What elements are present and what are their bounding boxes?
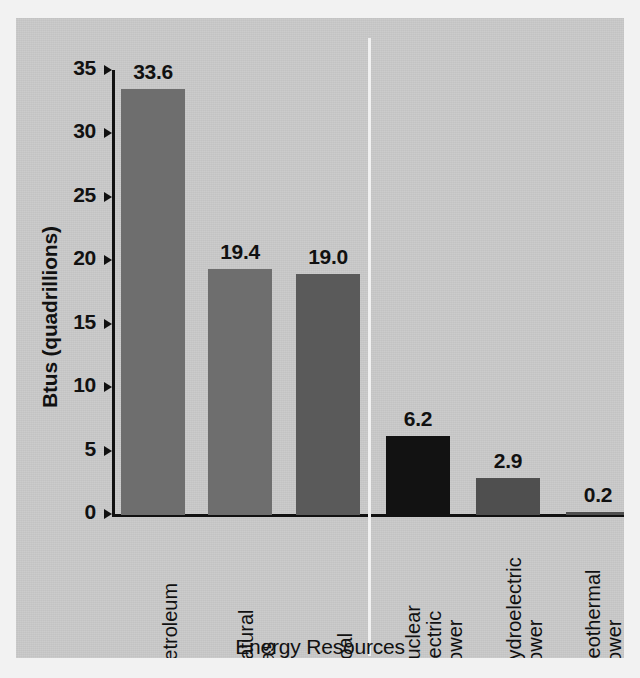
x-axis-title: Energy Resources	[16, 635, 624, 658]
bar-value-label: 0.2	[552, 484, 624, 505]
y-tick-arrow-icon	[104, 128, 112, 138]
y-axis-title: Btus (quadrillions)	[38, 226, 62, 408]
chart-panel: 35302520151050 33.619.419.06.22.90.2 Pet…	[16, 18, 624, 658]
plot-area: 33.619.419.06.22.90.2	[112, 70, 624, 515]
bar-value-label: 2.9	[462, 450, 554, 471]
bar-hydroelectric-power[interactable]	[476, 478, 540, 515]
y-tick-arrow-icon	[104, 446, 112, 456]
bar-geothermal-power-and-other[interactable]	[566, 512, 624, 515]
y-tick-label: 30	[73, 120, 96, 141]
y-tick-arrow-icon	[104, 319, 112, 329]
y-tick-label: 10	[73, 374, 96, 395]
y-tick-arrow-icon	[104, 382, 112, 392]
y-tick-arrow-icon	[104, 255, 112, 265]
bar-value-label: 19.0	[282, 246, 374, 267]
bar-natural-gas[interactable]	[208, 269, 272, 515]
y-tick-label: 5	[85, 438, 96, 459]
y-tick-label: 25	[73, 184, 96, 205]
y-tick-label: 35	[73, 57, 96, 78]
bar-petroleum[interactable]	[121, 89, 185, 515]
bar-value-label: 33.6	[107, 61, 199, 82]
bar-value-label: 6.2	[372, 408, 464, 429]
y-tick-label: 20	[73, 247, 96, 268]
bar-value-label: 19.4	[194, 241, 286, 262]
figure-root: 35302520151050 33.619.419.06.22.90.2 Pet…	[0, 0, 640, 678]
y-tick-arrow-icon	[104, 192, 112, 202]
y-tick-arrow-icon	[104, 509, 112, 519]
bar-coal[interactable]	[296, 274, 360, 515]
y-tick-label: 15	[73, 311, 96, 332]
y-tick-label: 0	[85, 501, 96, 522]
bar-nuclear-electric-power[interactable]	[386, 436, 450, 515]
